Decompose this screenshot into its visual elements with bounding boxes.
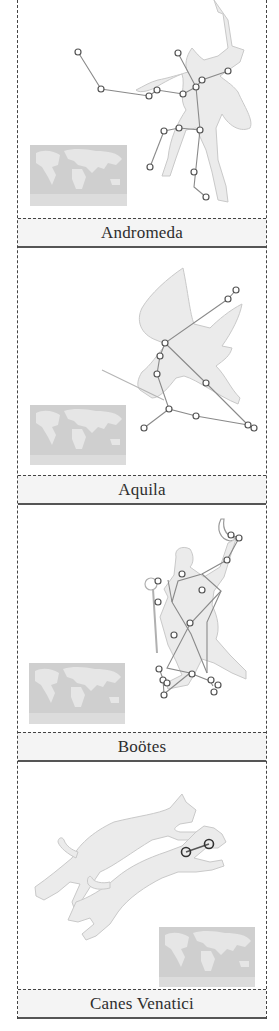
constellation-label[interactable]: Boötes	[18, 732, 266, 762]
constellation-card-aquila[interactable]: Aquila	[18, 248, 266, 505]
constellation-label[interactable]: Andromeda	[18, 218, 266, 248]
herdsman-icon	[18, 505, 266, 732]
card-artwork[interactable]	[18, 762, 266, 989]
world-map-icon	[29, 663, 125, 724]
world-map-icon	[30, 145, 127, 206]
card-artwork[interactable]	[18, 0, 266, 218]
world-map-icon	[159, 927, 255, 987]
card-artwork[interactable]	[18, 248, 266, 475]
constellation-card-list: Andromeda	[17, 0, 267, 1019]
eagle-icon	[18, 248, 266, 475]
world-map-icon	[30, 405, 126, 465]
hunting-dogs-icon	[18, 762, 266, 989]
constellation-card-canes-venatici[interactable]: Canes Venatici	[18, 762, 266, 1019]
woman-icon	[18, 0, 266, 218]
card-artwork[interactable]	[18, 505, 266, 732]
constellation-label[interactable]: Canes Venatici	[18, 989, 266, 1019]
constellation-card-bootes[interactable]: Boötes	[18, 505, 266, 762]
constellation-label[interactable]: Aquila	[18, 475, 266, 505]
constellation-card-andromeda[interactable]: Andromeda	[18, 0, 266, 248]
